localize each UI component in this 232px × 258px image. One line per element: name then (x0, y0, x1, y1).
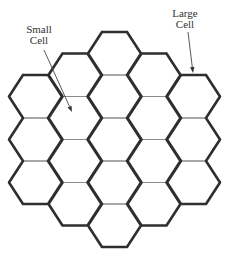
small-cells-grid (9, 32, 220, 247)
small-cell-label-line2: Cell (30, 34, 48, 46)
large-cell-outline (9, 32, 220, 247)
small-cell-arrow (44, 50, 70, 107)
small-cell-arrowhead-icon (68, 106, 72, 112)
large-cell-arrow (188, 32, 192, 67)
large-cell-boundary (9, 32, 220, 247)
large-cell-arrowhead-icon (190, 67, 194, 73)
large-cell-label-line2: Cell (176, 18, 194, 30)
hexagonal-cell-diagram: Small Cell Large Cell (0, 0, 232, 258)
large-cell-annotation: Large Cell (172, 7, 198, 73)
small-cell-annotation: Small Cell (26, 23, 72, 112)
